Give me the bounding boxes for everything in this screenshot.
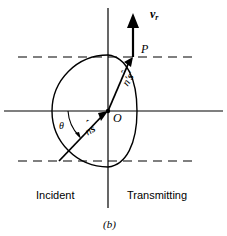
ray-velocity-vector-label: vr xyxy=(150,8,158,22)
origin-label: O xyxy=(113,112,122,124)
point-p-label: P xyxy=(141,43,148,55)
angle-theta-label: θ xyxy=(59,121,64,131)
region-label-transmitting: Transmitting xyxy=(127,190,187,201)
region-label-incident: Incident xyxy=(36,190,75,201)
ray-velocity-vector-subscript: r xyxy=(155,13,158,22)
figure-caption: (b) xyxy=(103,219,116,230)
ray-velocity-vector-arrowhead xyxy=(127,13,139,28)
angle-theta-arc xyxy=(68,111,79,136)
angle-theta-arc-arrowhead xyxy=(75,132,81,139)
incident-ray-line xyxy=(59,114,104,161)
origin-point-marker xyxy=(106,109,110,113)
optics-refraction-figure: vr P O θ nˆs n′ˆs′ Incident Transmitting… xyxy=(0,0,227,236)
